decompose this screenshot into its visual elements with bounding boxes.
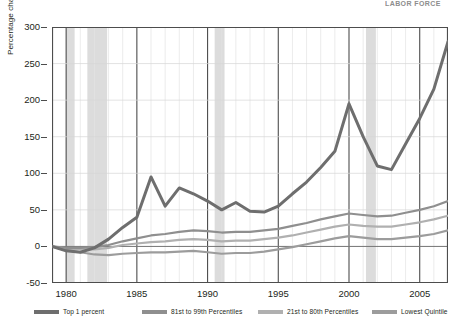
legend-item[interactable]: 81st to 99th Percentiles	[142, 305, 242, 318]
y-tick-label: 300	[24, 22, 40, 32]
y-tick-label: -50	[26, 278, 40, 288]
x-axis-tick-labels: 198019851990199520002005	[52, 288, 448, 300]
x-tick-label: 2005	[409, 289, 430, 299]
y-tick-label: 0	[35, 241, 40, 251]
legend-swatch	[34, 310, 59, 314]
legend-item[interactable]: Lowest Quintile	[372, 305, 448, 318]
y-tick-label: 250	[24, 59, 40, 69]
legend-label: 81st to 99th Percentiles	[171, 308, 242, 316]
legend-swatch	[142, 310, 167, 314]
y-tick-label: 150	[24, 132, 40, 142]
legend-swatch	[372, 310, 397, 314]
y-axis-tick-labels: 300250200150100500-50	[0, 27, 47, 283]
page-header-cut-text: LABOR FORCE	[385, 0, 457, 7]
y-tick-mark	[41, 173, 47, 174]
recession-band	[215, 27, 225, 283]
y-tick-mark	[41, 137, 47, 138]
x-tick-label: 1990	[197, 289, 218, 299]
x-tick-label: 1980	[56, 289, 77, 299]
y-tick-mark	[41, 27, 47, 28]
y-tick-mark	[41, 246, 47, 247]
recession-band	[66, 27, 74, 283]
legend-label: Top 1 percent	[63, 308, 104, 316]
plot-area	[52, 27, 448, 283]
y-tick-label: 100	[24, 168, 40, 178]
legend-item[interactable]: Top 1 percent	[34, 305, 104, 318]
y-tick-mark	[41, 64, 47, 65]
y-tick-mark	[41, 100, 47, 101]
y-tick-mark	[41, 210, 47, 211]
chart-legend: Top 1 percent81st to 99th Percentiles21s…	[34, 305, 454, 318]
y-tick-label: 50	[29, 205, 40, 215]
x-tick-label: 1995	[268, 289, 289, 299]
legend-item[interactable]: 21st to 80th Percentiles	[258, 305, 358, 318]
chart-svg	[52, 27, 448, 283]
legend-label: Lowest Quintile	[401, 308, 448, 316]
x-tick-label: 1985	[126, 289, 147, 299]
y-tick-label: 200	[24, 95, 40, 105]
chart-page: LABOR FORCE Percentage change in income …	[0, 0, 465, 323]
x-tick-label: 2000	[338, 289, 359, 299]
legend-label: 21st to 80th Percentiles	[287, 308, 358, 316]
y-tick-mark	[41, 283, 47, 284]
legend-swatch	[258, 310, 283, 314]
